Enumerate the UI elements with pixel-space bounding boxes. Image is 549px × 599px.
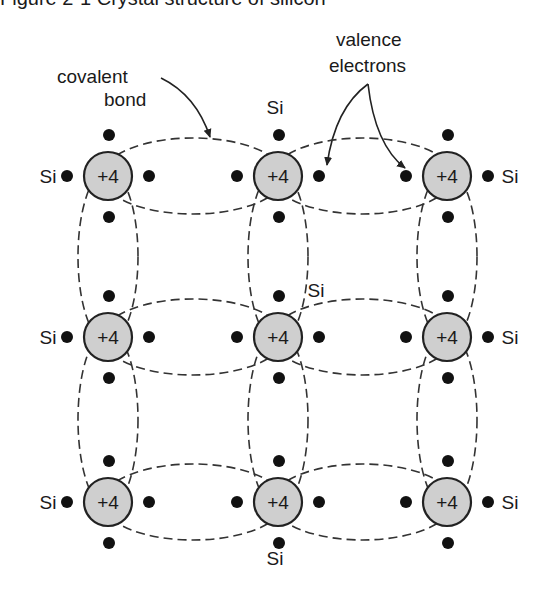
silicon-atom: +4 (423, 478, 471, 526)
valence-electron-dot (231, 331, 243, 343)
atom-charge-label: +4 (97, 492, 119, 513)
covalent-bond-label-line2: bond (104, 89, 146, 110)
neighbor-si-label: Si (502, 492, 519, 513)
silicon-atom: +4 (84, 478, 132, 526)
atom-charge-label: +4 (436, 327, 458, 348)
atom-charge-label: +4 (267, 327, 289, 348)
covalent-bond-arrow (161, 78, 210, 137)
silicon-atom: +4 (254, 478, 302, 526)
neighbor-si-label: Si (308, 280, 325, 301)
neighbor-si-label: Si (267, 548, 284, 569)
valence-electron-dot (442, 455, 454, 467)
valence-electron-dot (313, 496, 325, 508)
valence-electron-dot (273, 372, 285, 384)
valence-electron-dot (103, 129, 115, 141)
valence-electron-dot (400, 170, 412, 182)
valence-electron-dot (273, 129, 285, 141)
valence-electron-dot (61, 496, 73, 508)
valence-electrons-label: valence (336, 29, 402, 50)
valence-electron-dot (103, 290, 115, 302)
valence-electron-dot (231, 496, 243, 508)
silicon-atom: +4 (254, 152, 302, 200)
valence-electron-dot (400, 331, 412, 343)
valence-electron-dot (61, 331, 73, 343)
silicon-atom: +4 (84, 152, 132, 200)
atom-charge-label: +4 (267, 492, 289, 513)
atom-charge-label: +4 (97, 327, 119, 348)
valence-electron-dot (103, 211, 115, 223)
valence-electron-dot (482, 331, 494, 343)
valence-electron-dot (103, 372, 115, 384)
neighbor-si-label: Si (502, 166, 519, 187)
silicon-crystal-lattice-diagram: covalent bond valence electrons +4+4+4+4… (0, 0, 549, 599)
silicon-atom: +4 (423, 313, 471, 361)
covalent-bond-label: covalent (57, 66, 128, 87)
valence-electron-dot (313, 331, 325, 343)
valence-electron-dot (273, 455, 285, 467)
atom-charge-label: +4 (267, 166, 289, 187)
valence-electron-dot (273, 211, 285, 223)
valence-electron-dot (442, 290, 454, 302)
valence-electron-dot (103, 455, 115, 467)
atom-charge-label: +4 (97, 166, 119, 187)
silicon-atom: +4 (254, 313, 302, 361)
neighbor-si-label: Si (267, 97, 284, 118)
valence-electron-arrow-right (368, 84, 405, 168)
silicon-atom: +4 (84, 313, 132, 361)
valence-electron-dot (442, 537, 454, 549)
atom-charge-label: +4 (436, 166, 458, 187)
valence-electron-dot (400, 496, 412, 508)
valence-electron-dot (482, 170, 494, 182)
neighbor-si-label: Si (40, 166, 57, 187)
neighbor-si-label: Si (40, 492, 57, 513)
valence-electron-dot (143, 170, 155, 182)
valence-electron-dot (313, 170, 325, 182)
valence-electron-dot (143, 496, 155, 508)
valence-electron-dot (482, 496, 494, 508)
neighbor-si-label: Si (502, 327, 519, 348)
atom-charge-label: +4 (436, 492, 458, 513)
valence-electrons-label-line2: electrons (329, 55, 406, 76)
silicon-atom: +4 (423, 152, 471, 200)
valence-electron-dot (442, 211, 454, 223)
valence-electron-dot (103, 537, 115, 549)
valence-electron-arrow-left (327, 84, 368, 165)
neighbor-si-label: Si (40, 327, 57, 348)
valence-electron-dot (442, 129, 454, 141)
valence-electron-dot (273, 290, 285, 302)
valence-electron-dot (231, 170, 243, 182)
valence-electron-dot (143, 331, 155, 343)
valence-electron-dot (442, 372, 454, 384)
valence-electron-dot (61, 170, 73, 182)
